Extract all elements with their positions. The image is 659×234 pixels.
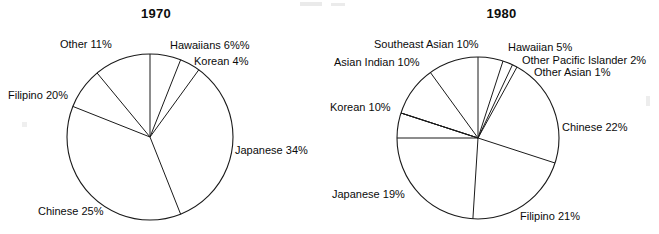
slice-label-1980-southeast-asian: Southeast Asian 10%	[374, 38, 479, 51]
slice-label-1980-other-asian: Other Asian 1%	[534, 66, 610, 79]
slice-label-1970-korean: Korean 4%	[194, 55, 248, 68]
slice-label-1980-asian-indian: Asian Indian 10%	[334, 56, 420, 69]
slice-label-1980-japanese: Japanese 19%	[332, 188, 405, 201]
slice-label-1970-japanese: Japanese 34%	[235, 144, 308, 157]
slice-label-1980-hawaiian: Hawaiian 5%	[508, 41, 572, 54]
slice-label-1980-korean: Korean 10%	[330, 101, 391, 114]
pie-chart-1980: 1980	[330, 0, 659, 234]
slice-label-1970-hawaiians: Hawaiians 6%%	[170, 39, 249, 52]
slice-label-1970-filipino: Filipino 20%	[8, 89, 68, 102]
pie-chart-1970: 1970 Other 11% Hawaiians 6%% Korean 4% F…	[0, 0, 330, 234]
scan-artifact	[331, 3, 345, 6]
slice-label-1970-chinese: Chinese 25%	[38, 205, 103, 218]
slice-label-1970-other: Other 11%	[60, 38, 112, 51]
pie-graphic-1970	[0, 0, 330, 234]
slice-label-1980-chinese: Chinese 22%	[562, 121, 627, 134]
scan-artifact	[22, 122, 27, 127]
scan-artifact	[646, 96, 650, 106]
slice-label-1980-filipino: Filipino 21%	[520, 210, 580, 223]
scan-artifact	[300, 2, 322, 6]
